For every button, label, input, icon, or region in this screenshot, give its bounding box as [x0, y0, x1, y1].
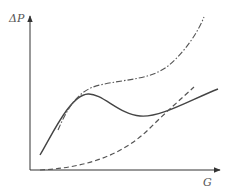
series-dashed	[40, 87, 194, 170]
chart: ΔP G	[0, 0, 234, 188]
series-solid	[40, 89, 218, 155]
series-dashdot	[58, 17, 204, 130]
y-axis-label: ΔP	[8, 12, 25, 25]
x-axis-label: G	[203, 176, 212, 188]
